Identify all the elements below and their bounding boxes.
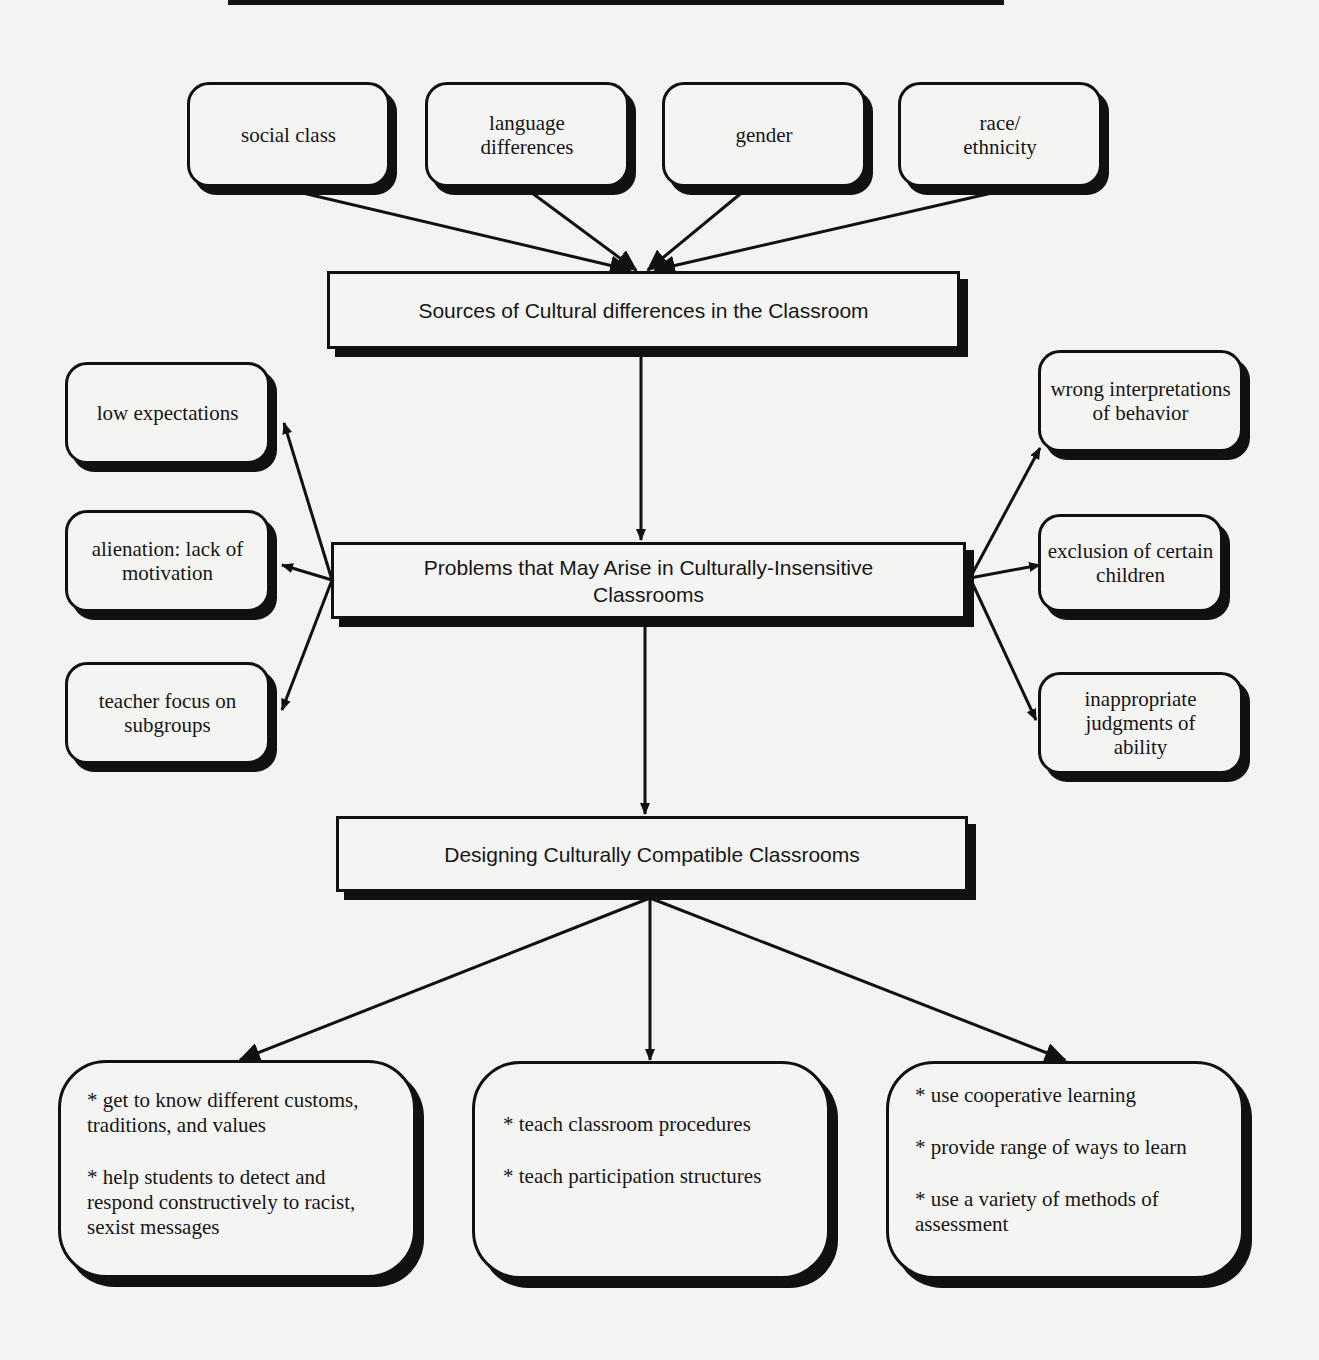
node-label: low expectations [97, 401, 239, 425]
node-language-differences: language differences [425, 82, 629, 187]
strategy-item: * get to know different customs, traditi… [87, 1088, 391, 1138]
node-label: gender [735, 123, 792, 147]
strategy-item: * help students to detect and respond co… [87, 1165, 391, 1240]
strategy-item: * teach classroom procedures [503, 1112, 807, 1137]
node-label: social class [241, 123, 336, 147]
problems-box: Problems that May Arise in Culturally-In… [331, 542, 966, 619]
strategy-item: * use a variety of methods of assessment [915, 1187, 1219, 1237]
node-label: race/ ethnicity [963, 111, 1036, 159]
problem-teacher-focus: teacher focus on subgroups [65, 662, 270, 764]
strategy-item: * use cooperative learning [915, 1083, 1219, 1108]
node-label: inappropriate judgments of ability [1071, 687, 1210, 759]
node-label: exclusion of certain children [1045, 539, 1216, 587]
strategy-box-3: * use cooperative learning * provide ran… [886, 1061, 1244, 1279]
node-label: wrong interpretations of behavior [1049, 377, 1232, 425]
problem-exclusion: exclusion of certain children [1038, 514, 1223, 612]
design-title: Designing Culturally Compatible Classroo… [444, 841, 860, 868]
strategy-box-2: * teach classroom procedures * teach par… [472, 1061, 830, 1279]
problem-wrong-interpretations: wrong interpretations of behavior [1038, 350, 1243, 452]
problem-alienation: alienation: lack of motivation [65, 510, 270, 612]
strategy-item: * teach participation structures [503, 1164, 807, 1189]
node-race-ethnicity: race/ ethnicity [898, 82, 1102, 187]
node-social-class: social class [187, 82, 390, 187]
node-label: language differences [481, 111, 574, 159]
problem-low-expectations: low expectations [65, 362, 270, 464]
sources-title: Sources of Cultural differences in the C… [418, 297, 868, 324]
node-label: alienation: lack of motivation [72, 537, 263, 585]
problem-judgments: inappropriate judgments of ability [1038, 672, 1243, 774]
node-label: teacher focus on subgroups [88, 689, 247, 737]
design-box: Designing Culturally Compatible Classroo… [336, 816, 968, 892]
sources-box: Sources of Cultural differences in the C… [327, 271, 960, 349]
strategy-item: * provide range of ways to learn [915, 1135, 1219, 1160]
strategy-box-1: * get to know different customs, traditi… [58, 1060, 416, 1278]
problems-title: Problems that May Arise in Culturally-In… [384, 554, 913, 608]
node-gender: gender [662, 82, 866, 187]
